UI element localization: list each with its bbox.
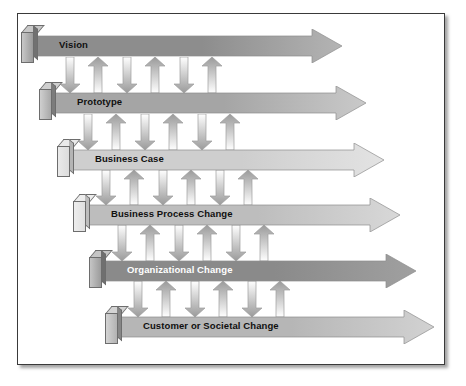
row-start-block xyxy=(73,194,90,232)
row-start-block xyxy=(21,25,38,63)
block-front-face xyxy=(73,201,86,232)
diagram-row: Organizational Change xyxy=(100,254,416,288)
block-front-face xyxy=(57,146,70,177)
block-front-face xyxy=(105,313,118,344)
block-front-face xyxy=(39,89,52,120)
row-label: Organizational Change xyxy=(127,263,233,277)
diagram-stage: VisionPrototypeBusiness CaseBusiness Pro… xyxy=(18,14,444,364)
row-label: Customer or Societal Change xyxy=(143,319,279,333)
diagram-row: Vision xyxy=(32,29,342,63)
block-front-face xyxy=(89,257,102,288)
row-label: Business Process Change xyxy=(111,207,233,221)
row-label: Business Case xyxy=(95,152,164,166)
diagram-frame: VisionPrototypeBusiness CaseBusiness Pro… xyxy=(17,13,445,365)
diagram-row: Prototype xyxy=(50,86,366,120)
row-start-block xyxy=(57,139,74,177)
row-start-block xyxy=(39,82,56,120)
diagram-row: Business Process Change xyxy=(84,198,400,232)
row-start-block xyxy=(89,250,106,288)
row-start-block xyxy=(105,306,122,344)
block-front-face xyxy=(21,32,34,63)
diagram-row: Business Case xyxy=(68,143,384,177)
row-label: Vision xyxy=(59,38,88,52)
diagram-row: Customer or Societal Change xyxy=(116,310,434,344)
row-label: Prototype xyxy=(77,95,122,109)
